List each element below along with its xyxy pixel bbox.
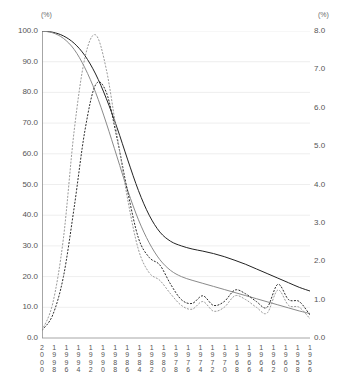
left-axis-tick-label: 0.0 (0, 334, 38, 342)
x-axis-tick-label: 1990 (97, 344, 109, 374)
left-axis-tick-label: 100.0 (0, 27, 38, 35)
x-axis-tick-label: 1968 (231, 344, 243, 374)
x-axis-tick-label: 1964 (255, 344, 267, 374)
x-axis-tick-label: 1966 (243, 344, 255, 374)
x-axis-tick-label: 1996 (60, 344, 72, 374)
left-axis-tick-label: 20.0 (0, 273, 38, 281)
right-axis-tick-label: 8.0 (314, 27, 340, 35)
series-line-series_d (42, 35, 310, 331)
chart-container: (%) (%) 100.090.080.070.060.050.040.030.… (0, 0, 341, 383)
right-axis-tick-label: 2.0 (314, 257, 340, 265)
x-axis-tick-label: 1994 (73, 344, 85, 374)
x-axis-tick-label: 1974 (194, 344, 206, 374)
x-axis-tick-label: 1998 (48, 344, 60, 374)
x-axis-tick-label: 1962 (267, 344, 279, 374)
left-axis-unit-label: (%) (41, 11, 52, 18)
x-axis-tick-label: 1958 (292, 344, 304, 374)
x-axis-tick-label: 1992 (85, 344, 97, 374)
series-line-series_c (42, 82, 310, 330)
series-line-series_b (42, 31, 310, 313)
right-axis-tick-label: 3.0 (314, 219, 340, 227)
x-axis-tick-label: 1988 (109, 344, 121, 374)
x-axis-tick-label: 1984 (133, 344, 145, 374)
series-line-series_a (42, 31, 310, 291)
right-axis-tick-label: 4.0 (314, 181, 340, 189)
right-axis-tick-label: 7.0 (314, 65, 340, 73)
x-axis-tick-label: 1960 (280, 344, 292, 374)
left-axis-tick-label: 70.0 (0, 119, 38, 127)
chart-svg (42, 31, 310, 339)
x-axis-tick-label: 1980 (158, 344, 170, 374)
x-axis-tick-label: 1972 (207, 344, 219, 374)
x-axis-tick-label: 1956 (304, 344, 316, 374)
plot-area (42, 31, 310, 338)
left-axis-tick-label: 90.0 (0, 58, 38, 66)
x-axis-tick-label: 2000 (36, 344, 48, 374)
left-axis-tick-label: 80.0 (0, 88, 38, 96)
x-axis-tick-label: 1970 (219, 344, 231, 374)
left-axis-tick-label: 30.0 (0, 242, 38, 250)
right-axis-unit-label: (%) (318, 11, 329, 18)
right-axis-tick-label: 0.0 (314, 334, 340, 342)
right-axis-tick-label: 1.0 (314, 296, 340, 304)
right-axis-tick-label: 5.0 (314, 142, 340, 150)
left-axis-tick-label: 50.0 (0, 181, 38, 189)
right-axis-tick-label: 6.0 (314, 104, 340, 112)
left-axis-tick-label: 40.0 (0, 211, 38, 219)
x-axis-tick-label: 1976 (182, 344, 194, 374)
left-axis-tick-label: 10.0 (0, 303, 38, 311)
left-axis-tick-label: 60.0 (0, 150, 38, 158)
x-axis-tick-label: 1978 (170, 344, 182, 374)
x-axis-tick-label: 1982 (146, 344, 158, 374)
x-axis-tick-label: 1986 (121, 344, 133, 374)
